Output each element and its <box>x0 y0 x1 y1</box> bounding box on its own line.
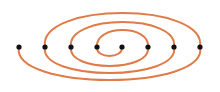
point-2 <box>42 44 47 49</box>
point-row <box>16 44 202 49</box>
spiral-arc <box>45 47 174 73</box>
point-6 <box>145 44 150 49</box>
point-5 <box>119 44 124 49</box>
point-7 <box>171 44 176 49</box>
point-3 <box>68 44 73 49</box>
point-1 <box>16 44 21 49</box>
spiral-diagram <box>0 0 220 92</box>
spiral-arc <box>97 47 122 56</box>
spiral-arc <box>71 22 174 47</box>
point-4 <box>94 44 99 49</box>
point-8 <box>197 44 202 49</box>
